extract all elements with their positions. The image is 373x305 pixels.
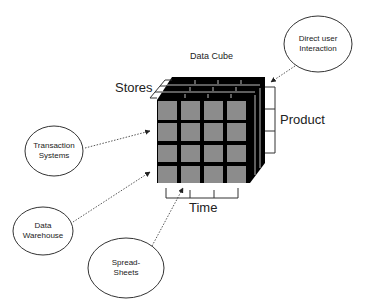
arrow-warehouse (73, 172, 150, 222)
direct-user-label: Direct user Interaction (290, 34, 346, 54)
stores-label: Stores (115, 80, 153, 95)
transaction-label: Transaction Systems (26, 141, 82, 161)
time-label: Time (189, 200, 217, 215)
time-bracket (166, 188, 238, 198)
diagram-title: Data Cube (190, 51, 233, 61)
data-cube (157, 77, 265, 183)
product-label: Product (280, 112, 325, 127)
product-bracket (265, 87, 275, 153)
arrow-spreadsheets (152, 188, 183, 246)
arrow-direct-user (271, 66, 295, 82)
warehouse-label: Data Warehouse (15, 221, 71, 241)
arrow-transaction (85, 131, 150, 148)
spreadsheets-label: Spread- Sheets (98, 258, 154, 278)
